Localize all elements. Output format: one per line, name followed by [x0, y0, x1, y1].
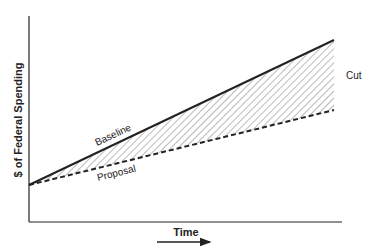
- x-axis-label: Time: [173, 226, 198, 238]
- spending-diagram: $ of Federal Spending Baseline Proposal …: [0, 0, 375, 252]
- cut-label: Cut: [346, 70, 362, 81]
- y-axis-label: $ of Federal Spending: [12, 63, 24, 178]
